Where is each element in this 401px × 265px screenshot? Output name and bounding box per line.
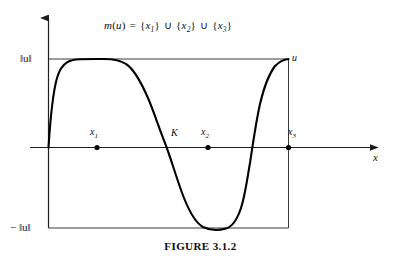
region-label-k: K (171, 128, 178, 138)
union-icon-1: ∪ (163, 19, 173, 31)
point-label-x2: x2 (201, 127, 209, 140)
equation-function-name: m (104, 19, 112, 31)
point-label-x1: x1 (90, 127, 98, 140)
equation-brace-close-1: } (154, 19, 159, 31)
curve-endpoint-label: u (292, 53, 297, 63)
point-marker-x3 (286, 145, 291, 150)
figure-caption: FIGURE 3.1.2 (0, 240, 401, 252)
figure-container: m(u) = {x1} ∪ {x2} ∪ {x3} ‖u‖ − ‖u‖ u x … (0, 0, 401, 265)
equation-brace-close-2: } (191, 19, 196, 31)
point-label-x3: x3 (288, 127, 296, 140)
point-marker-x2 (205, 145, 210, 150)
equation-paren-close: ) (122, 19, 126, 31)
point-label-x1-sub: 1 (94, 132, 98, 140)
y-axis-lower-tick-label: − ‖u‖ (10, 222, 31, 233)
x-axis-label: x (373, 152, 378, 163)
equation-equals: = (129, 19, 137, 31)
point-label-x2-sub: 2 (205, 132, 209, 140)
point-marker-x1 (94, 145, 99, 150)
union-icon-2: ∪ (199, 19, 209, 31)
equation-brace-close-3: } (227, 19, 232, 31)
point-label-x3-sub: 3 (292, 132, 296, 140)
y-axis-upper-tick-label: ‖u‖ (20, 53, 32, 64)
title-equation: m(u) = {x1} ∪ {x2} ∪ {x3} (104, 20, 232, 34)
function-curve (49, 59, 289, 230)
